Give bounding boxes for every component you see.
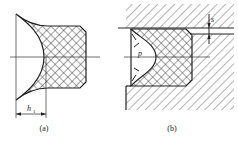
- dimension-subscript: 1: [33, 109, 36, 114]
- panel-a: h 1 (a): [10, 14, 100, 133]
- gap-label: s: [211, 15, 214, 24]
- seal-diagram: h 1 (a) p s (b): [0, 0, 238, 143]
- arrow-right-icon: [41, 112, 46, 115]
- caption-b: (b): [167, 124, 177, 133]
- caption-a: (a): [40, 124, 49, 133]
- panel-b: p s (b): [118, 4, 234, 133]
- arrow-left-icon: [16, 112, 21, 115]
- pressure-label: p: [137, 49, 142, 58]
- dimension-label-h: h: [27, 104, 31, 113]
- housing-top: [126, 4, 234, 28]
